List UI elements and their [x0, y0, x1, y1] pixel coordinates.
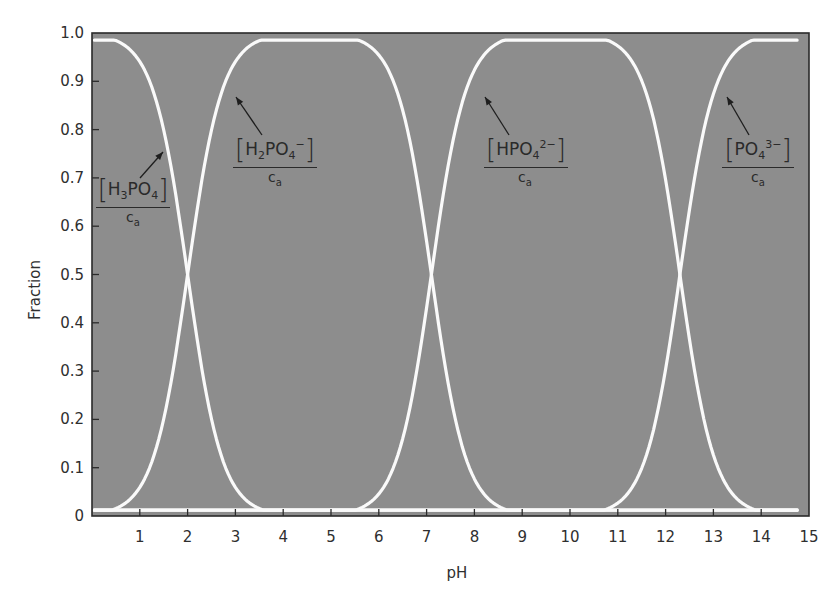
denominator: ca: [484, 168, 566, 192]
x-tick-label: 6: [374, 528, 384, 546]
x-tick-label: 10: [560, 528, 579, 546]
x-tick-label: 3: [231, 528, 241, 546]
y-tick-label: 0.3: [60, 362, 84, 380]
y-tick-label: 0.2: [60, 410, 84, 428]
y-axis-label: Fraction: [26, 260, 44, 320]
denominator: ca: [722, 168, 794, 192]
y-tick-label: 1.0: [60, 24, 84, 42]
numerator: [HPO42−]: [484, 134, 568, 168]
x-tick-label: 5: [326, 528, 336, 546]
denominator: ca: [232, 168, 318, 192]
numerator: [PO43−]: [722, 134, 793, 168]
x-tick-label: 1: [135, 528, 145, 546]
y-tick-label: 0: [74, 507, 84, 525]
x-tick-label: 12: [656, 528, 675, 546]
x-tick-label: 14: [752, 528, 771, 546]
plot-area: [92, 33, 809, 516]
x-tick-label: 11: [608, 528, 627, 546]
y-tick-label: 0.5: [60, 266, 84, 284]
label-h3po4: [H3PO4] ca: [94, 178, 172, 232]
label-hpo4: [HPO42−] ca: [484, 134, 566, 192]
x-tick-label: 13: [704, 528, 723, 546]
x-tick-label: 8: [470, 528, 480, 546]
x-axis-label: pH: [447, 564, 468, 582]
y-tick-label: 0.1: [60, 459, 84, 477]
phosphate-speciation-chart: 123456789101112131415 00.10.20.30.40.50.…: [0, 0, 839, 608]
numerator: [H3PO4]: [96, 178, 171, 208]
y-tick-label: 0.9: [60, 72, 84, 90]
y-tick-label: 0.6: [60, 217, 84, 235]
x-tick-label: 9: [517, 528, 527, 546]
denominator: ca: [94, 208, 172, 232]
x-tick-label: 4: [278, 528, 288, 546]
numerator: [H2PO4−]: [233, 134, 317, 168]
y-tick-label: 0.7: [60, 169, 84, 187]
label-h2po4: [H2PO4−] ca: [232, 134, 318, 192]
x-tick-label: 7: [422, 528, 432, 546]
label-po4: [PO43−] ca: [722, 134, 794, 192]
x-tick-label: 2: [183, 528, 193, 546]
y-tick-label: 0.4: [60, 314, 84, 332]
x-tick-label: 15: [799, 528, 818, 546]
y-tick-label: 0.8: [60, 121, 84, 139]
